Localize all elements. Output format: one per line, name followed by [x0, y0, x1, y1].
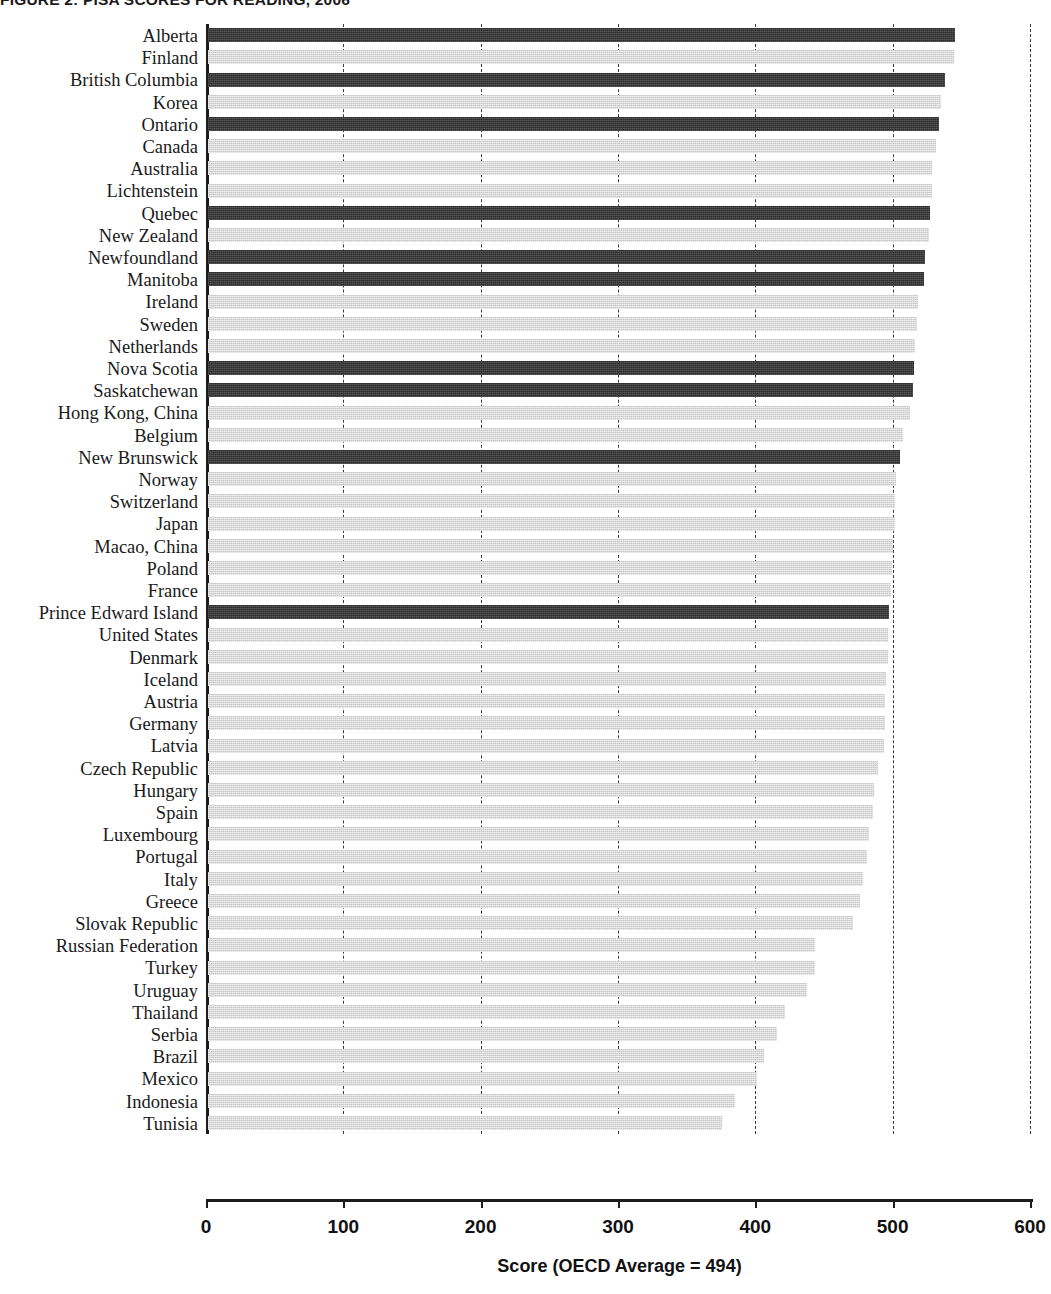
bar-british-columbia[interactable] — [208, 73, 945, 87]
category-label-new-brunswick: New Brunswick — [0, 447, 198, 469]
bar-brazil[interactable] — [208, 1049, 764, 1063]
category-label-lichtenstein: Lichtenstein — [0, 180, 198, 202]
category-label-indonesia: Indonesia — [0, 1091, 198, 1113]
x-tick-400 — [755, 1199, 757, 1208]
category-label-mexico: Mexico — [0, 1068, 198, 1090]
bar-australia[interactable] — [208, 161, 932, 175]
x-tick-300 — [618, 1199, 620, 1208]
x-tick-label-100: 100 — [303, 1216, 383, 1238]
bar-portugal[interactable] — [208, 850, 867, 864]
category-label-spain: Spain — [0, 802, 198, 824]
bar-hong-kong-china[interactable] — [208, 406, 910, 420]
bar-new-zealand[interactable] — [208, 228, 929, 242]
category-label-nova-scotia: Nova Scotia — [0, 358, 198, 380]
bar-tunisia[interactable] — [208, 1116, 722, 1130]
category-label-russian-federation: Russian Federation — [0, 935, 198, 957]
bar-finland[interactable] — [208, 50, 954, 64]
bar-italy[interactable] — [208, 872, 863, 886]
category-label-brazil: Brazil — [0, 1046, 198, 1068]
category-label-finland: Finland — [0, 47, 198, 69]
category-label-uruguay: Uruguay — [0, 980, 198, 1002]
category-label-latvia: Latvia — [0, 735, 198, 757]
bar-newfoundland[interactable] — [208, 250, 925, 264]
x-tick-label-0: 0 — [166, 1216, 246, 1238]
bar-lichtenstein[interactable] — [208, 184, 932, 198]
bar-netherlands[interactable] — [208, 339, 915, 353]
category-label-thailand: Thailand — [0, 1002, 198, 1024]
category-label-manitoba: Manitoba — [0, 269, 198, 291]
category-label-quebec: Quebec — [0, 203, 198, 225]
x-axis-title: Score (OECD Average = 494) — [206, 1256, 1033, 1277]
category-label-japan: Japan — [0, 513, 198, 535]
bar-norway[interactable] — [208, 472, 896, 486]
bar-uruguay[interactable] — [208, 983, 807, 997]
category-label-austria: Austria — [0, 691, 198, 713]
bar-germany[interactable] — [208, 716, 885, 730]
bar-hungary[interactable] — [208, 783, 874, 797]
category-label-united-states: United States — [0, 624, 198, 646]
bar-belgium[interactable] — [208, 428, 903, 442]
figure-container: FIGURE 2: PISA SCORES FOR READING, 2006 … — [0, 0, 1051, 1294]
bar-thailand[interactable] — [208, 1005, 785, 1019]
bar-sweden[interactable] — [208, 317, 917, 331]
x-tick-label-400: 400 — [715, 1216, 795, 1238]
bar-united-states[interactable] — [208, 628, 888, 642]
category-label-new-zealand: New Zealand — [0, 225, 198, 247]
bar-switzerland[interactable] — [208, 494, 895, 508]
bar-slovak-republic[interactable] — [208, 916, 853, 930]
category-label-macao-china: Macao, China — [0, 536, 198, 558]
bar-indonesia[interactable] — [208, 1094, 735, 1108]
bar-greece[interactable] — [208, 894, 860, 908]
category-label-british-columbia: British Columbia — [0, 69, 198, 91]
bar-denmark[interactable] — [208, 650, 888, 664]
bar-iceland[interactable] — [208, 672, 886, 686]
bar-turkey[interactable] — [208, 961, 815, 975]
bar-austria[interactable] — [208, 694, 885, 708]
category-label-iceland: Iceland — [0, 669, 198, 691]
category-label-tunisia: Tunisia — [0, 1113, 198, 1135]
bar-saskatchewan[interactable] — [208, 383, 913, 397]
category-label-australia: Australia — [0, 158, 198, 180]
bar-france[interactable] — [208, 583, 891, 597]
bar-new-brunswick[interactable] — [208, 450, 900, 464]
x-tick-0 — [206, 1199, 208, 1208]
x-tick-label-300: 300 — [578, 1216, 658, 1238]
bar-russian-federation[interactable] — [208, 938, 815, 952]
bar-ontario[interactable] — [208, 117, 939, 131]
plot-area — [206, 24, 1030, 1200]
bar-quebec[interactable] — [208, 206, 930, 220]
bar-mexico[interactable] — [208, 1072, 757, 1086]
bar-alberta[interactable] — [208, 28, 955, 42]
category-label-prince-edward-island: Prince Edward Island — [0, 602, 198, 624]
bar-korea[interactable] — [208, 95, 941, 109]
x-tick-label-600: 600 — [990, 1216, 1051, 1238]
bar-nova-scotia[interactable] — [208, 361, 914, 375]
bar-canada[interactable] — [208, 139, 936, 153]
category-label-canada: Canada — [0, 136, 198, 158]
category-label-italy: Italy — [0, 869, 198, 891]
bar-manitoba[interactable] — [208, 272, 924, 286]
category-label-germany: Germany — [0, 713, 198, 735]
bar-luxembourg[interactable] — [208, 827, 869, 841]
bar-prince-edward-island[interactable] — [208, 605, 889, 619]
category-label-korea: Korea — [0, 92, 198, 114]
category-label-serbia: Serbia — [0, 1024, 198, 1046]
bar-serbia[interactable] — [208, 1027, 777, 1041]
x-tick-600 — [1030, 1199, 1032, 1208]
bar-czech-republic[interactable] — [208, 761, 878, 775]
bar-latvia[interactable] — [208, 739, 884, 753]
category-label-luxembourg: Luxembourg — [0, 824, 198, 846]
bar-poland[interactable] — [208, 561, 892, 575]
bar-japan[interactable] — [208, 517, 895, 531]
category-label-ireland: Ireland — [0, 291, 198, 313]
bar-ireland[interactable] — [208, 295, 918, 309]
x-tick-label-500: 500 — [853, 1216, 933, 1238]
category-label-ontario: Ontario — [0, 114, 198, 136]
category-label-alberta: Alberta — [0, 25, 198, 47]
bar-macao-china[interactable] — [208, 539, 893, 553]
category-label-newfoundland: Newfoundland — [0, 247, 198, 269]
bar-spain[interactable] — [208, 805, 873, 819]
category-label-france: France — [0, 580, 198, 602]
category-label-sweden: Sweden — [0, 314, 198, 336]
category-label-turkey: Turkey — [0, 957, 198, 979]
